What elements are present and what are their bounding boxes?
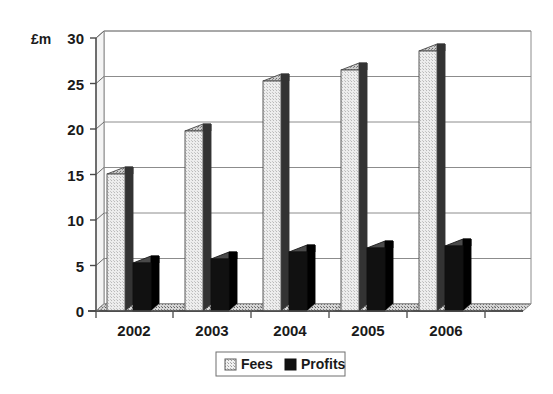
y-tick-label-25: 25 — [67, 76, 84, 93]
bar-fees-2005 — [341, 63, 367, 311]
x-tick-label-2004: 2004 — [273, 322, 307, 339]
y-tick-label-0: 0 — [76, 303, 84, 320]
y-tick-label-10: 10 — [67, 212, 84, 229]
legend-swatch-fees — [225, 359, 236, 370]
y-tick-label-15: 15 — [67, 167, 84, 184]
x-tick-label-2003: 2003 — [195, 322, 228, 339]
y-tick-label-30: 30 — [67, 30, 84, 47]
bar-fees-2004 — [263, 74, 289, 311]
legend: Fees Profits — [216, 352, 346, 376]
x-tick-label-2005: 2005 — [351, 322, 384, 339]
y-tick-label-20: 20 — [67, 121, 84, 138]
legend-swatch-profits — [285, 359, 296, 370]
chart-canvas: 30 25 20 15 10 5 0 £m — [0, 0, 553, 394]
legend-label-fees: Fees — [241, 356, 273, 372]
x-tick-label-2006: 2006 — [429, 322, 462, 339]
bar-fees-2006 — [419, 44, 445, 311]
bar-chart: 30 25 20 15 10 5 0 £m — [0, 0, 553, 394]
bar-fees-2002 — [107, 167, 133, 311]
y-axis-unit-label: £m — [31, 31, 51, 47]
y-tick-label-5: 5 — [76, 258, 84, 275]
bar-fees-2003 — [185, 124, 211, 311]
x-tick-label-2002: 2002 — [117, 322, 150, 339]
legend-label-profits: Profits — [301, 356, 346, 372]
